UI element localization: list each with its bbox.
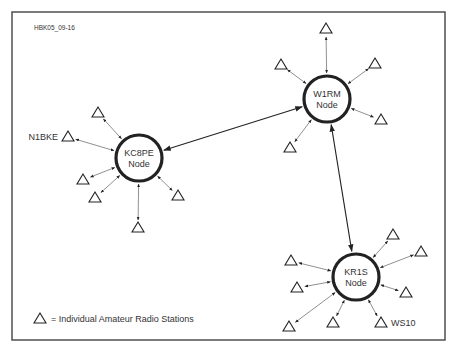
node-callsign: KC8PE — [124, 148, 154, 158]
node-label: Node — [316, 100, 338, 110]
node-circle — [333, 254, 379, 300]
network-diagram: HBK05_09-16 KC8PENodeW1RMNodeKR1SNode N1… — [0, 0, 456, 348]
station-label: N1BKE — [28, 132, 58, 142]
figure-id: HBK05_09-16 — [34, 24, 75, 32]
node-callsign: W1RM — [313, 89, 341, 99]
node-label: Node — [345, 278, 367, 288]
node-circle — [116, 135, 162, 181]
diagram-frame — [12, 12, 445, 340]
node-callsign: KR1S — [344, 267, 368, 277]
legend-text: = Individual Amateur Radio Stations — [51, 314, 194, 324]
node-label: Node — [128, 159, 150, 169]
station-label: WS10 — [391, 318, 416, 328]
node-circle — [304, 76, 350, 122]
